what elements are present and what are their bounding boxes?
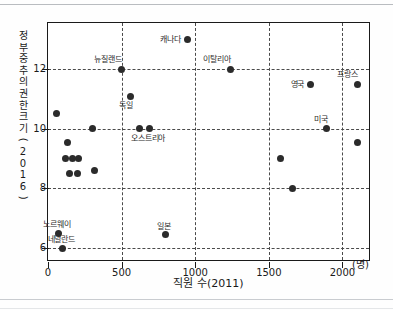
data-point-미국[interactable] [323, 125, 330, 132]
data-point[interactable] [277, 155, 284, 162]
data-point[interactable] [354, 139, 361, 146]
data-point[interactable] [64, 139, 71, 146]
data-point[interactable] [74, 170, 81, 177]
y-tick-label: 8 [31, 183, 46, 193]
data-point[interactable] [66, 170, 73, 177]
data-point-영국[interactable] [307, 81, 314, 88]
gridline-vertical [342, 23, 343, 260]
gridline-vertical [195, 23, 196, 260]
x-axis-unit: (명) [352, 256, 369, 271]
data-point-네덜란드[interactable] [59, 245, 66, 252]
data-point-label: 이탈리아 [203, 55, 230, 64]
data-point-프랑스[interactable] [354, 81, 361, 88]
scatter-chart-figure: 정부중추의권한크기(2016) 6810120500100015002000노르… [0, 6, 393, 298]
data-point-오스트리아[interactable] [136, 125, 143, 132]
y-tick-label: 6 [31, 243, 46, 253]
y-tick-label: 10 [31, 124, 46, 134]
data-point-일본[interactable] [162, 231, 169, 238]
gridline-horizontal [48, 248, 369, 249]
chart-card: 정부중추의권한크기(2016) 6810120500100015002000노르… [0, 0, 393, 310]
bottom-divider-secondary [0, 308, 393, 309]
y-axis-title: 정부중추의권한크기(2016) [10, 30, 36, 204]
data-point-label: 네덜란드 [48, 235, 75, 244]
gridline-vertical [122, 23, 123, 260]
data-point-label: 일본 [157, 222, 171, 231]
gridline-vertical [269, 23, 270, 260]
data-point[interactable] [91, 167, 98, 174]
gridline-horizontal [48, 69, 369, 70]
x-axis-title: 직원 수(2011) [47, 274, 370, 290]
data-point[interactable] [146, 125, 153, 132]
plot-area: 6810120500100015002000노르웨이네덜란드뉴질랜드독일오스트리… [47, 22, 370, 261]
data-point[interactable] [53, 110, 60, 117]
data-point-label: 캐나다 [160, 35, 180, 44]
data-point-label: 뉴질랜드 [94, 55, 121, 64]
data-point-label: 프랑스 [337, 70, 357, 79]
gridline-horizontal [48, 188, 369, 189]
data-point-이탈리아[interactable] [227, 66, 234, 73]
y-tick-label: 12 [31, 64, 46, 74]
gridline-horizontal [48, 129, 369, 130]
data-point-label: 독일 [119, 101, 133, 110]
top-divider [0, 4, 393, 5]
data-point-label: 미국 [314, 115, 328, 124]
data-point[interactable] [289, 185, 296, 192]
data-point-뉴질랜드[interactable] [118, 66, 125, 73]
bottom-divider [0, 299, 393, 300]
data-point[interactable] [89, 125, 96, 132]
data-point-캐나다[interactable] [184, 36, 191, 43]
data-point-label: 영국 [291, 80, 305, 89]
data-point-label: 오스트리아 [131, 134, 165, 143]
data-point-label: 노르웨이 [43, 220, 70, 229]
data-point[interactable] [75, 155, 82, 162]
data-point-독일[interactable] [127, 93, 134, 100]
